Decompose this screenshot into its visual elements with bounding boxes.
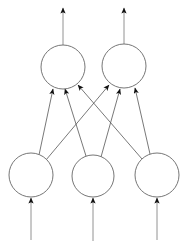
node-in-3[interactable] — [135, 153, 179, 197]
node-in-2[interactable] — [72, 155, 114, 197]
node-in-1[interactable] — [9, 153, 53, 197]
network-canvas — [0, 0, 190, 243]
edge-in1-out1 — [39, 89, 53, 155]
output-arrow-group — [63, 8, 124, 45]
neural-network-diagram — [0, 0, 190, 243]
output-layer-nodes — [41, 44, 146, 89]
node-out-1[interactable] — [41, 45, 85, 89]
edge-group — [39, 85, 150, 160]
edge-in3-out2 — [135, 88, 150, 154]
edge-in1-out2 — [46, 85, 109, 160]
edge-in2-out1 — [65, 89, 86, 156]
node-out-2[interactable] — [102, 44, 146, 88]
input-layer-nodes — [9, 153, 179, 197]
input-arrow-group — [31, 198, 157, 241]
edge-in3-out1 — [78, 85, 142, 159]
